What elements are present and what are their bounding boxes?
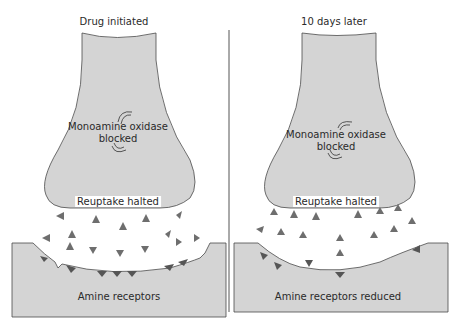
receptor-label-right: Amine receptors reduced bbox=[275, 291, 401, 303]
enzyme-name-right: Monoamine oxidase bbox=[286, 129, 386, 141]
enzyme-name-left: Monoamine oxidase bbox=[68, 121, 168, 133]
enzyme-state-left: blocked bbox=[68, 133, 168, 145]
reuptake-text-right: Reuptake halted bbox=[293, 196, 379, 207]
enzyme-label-left: Monoamine oxidase blocked bbox=[68, 121, 168, 145]
diagram-canvas bbox=[0, 0, 457, 330]
presynaptic-neuron-right bbox=[265, 33, 416, 208]
reuptake-label-right: Reuptake halted bbox=[293, 196, 379, 208]
reuptake-text-left: Reuptake halted bbox=[75, 196, 161, 207]
receptor-label-left: Amine receptors bbox=[78, 291, 160, 303]
enzyme-state-right: blocked bbox=[286, 141, 386, 153]
amine-molecules-left bbox=[42, 211, 200, 257]
panel-title-left: Drug initiated bbox=[80, 16, 149, 28]
enzyme-label-right: Monoamine oxidase blocked bbox=[286, 129, 386, 153]
panel-title-right: 10 days later bbox=[301, 16, 367, 28]
amine-molecules-right bbox=[256, 204, 416, 256]
reuptake-label-left: Reuptake halted bbox=[75, 196, 161, 208]
